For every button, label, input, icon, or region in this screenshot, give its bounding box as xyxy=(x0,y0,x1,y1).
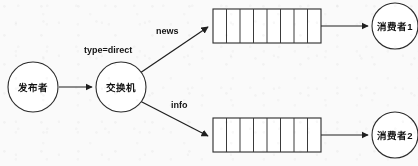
node-consumer2: 消费者2 xyxy=(372,112,418,158)
exchange-type-annotation: type=direct xyxy=(84,45,132,55)
node-consumer1: 消费者1 xyxy=(372,3,418,49)
edge-exchange-to-queue-news: news xyxy=(140,26,208,73)
edge-exchange-to-queue-info: info xyxy=(140,100,208,136)
publisher-label: 发布者 xyxy=(17,82,48,93)
node-exchange: 交换机 xyxy=(96,62,146,112)
edge-label-info: info xyxy=(171,100,188,110)
edge-label-news: news xyxy=(156,26,179,36)
consumer2-label: 消费者2 xyxy=(377,130,412,141)
node-publisher: 发布者 xyxy=(8,62,58,112)
diagram-canvas: news info type=direct xyxy=(0,0,418,166)
queue-news xyxy=(213,9,321,43)
consumer1-label: 消费者1 xyxy=(377,21,413,32)
queue-info xyxy=(213,118,321,152)
routing-diagram: news info type=direct xyxy=(0,0,418,166)
exchange-label: 交换机 xyxy=(106,82,136,93)
